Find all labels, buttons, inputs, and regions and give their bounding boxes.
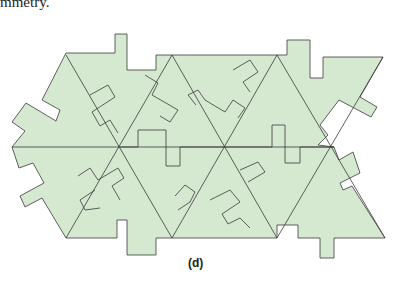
tessellation-figure	[0, 0, 397, 282]
figure-label: (d)	[188, 256, 203, 270]
tessellation-outline	[12, 34, 385, 258]
